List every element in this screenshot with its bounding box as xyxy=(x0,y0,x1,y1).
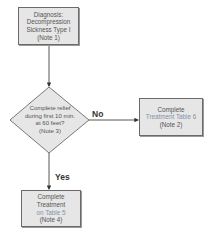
table5-box: Complete Treatment on Table 5 (Note 4) xyxy=(21,190,81,227)
table5-line-3: on Table 5 xyxy=(37,209,66,217)
decision-line-2: during first 10 min. xyxy=(20,112,80,120)
table6-box: Complete Treatment Table 6 (Note 2) xyxy=(139,98,203,136)
decision-line-3: at 60 feet? xyxy=(20,119,80,127)
diagnosis-box: Diagnosis: Decompression Sickness Type I… xyxy=(18,7,79,45)
table6-line-2: Treatment Table 6 xyxy=(146,113,196,121)
diagnosis-line-3: Sickness Type I xyxy=(27,26,71,34)
diagnosis-line-2: Decompression xyxy=(27,18,71,26)
table5-line-4: (Note 4) xyxy=(40,216,63,224)
table6-line-3: (Note 2) xyxy=(160,121,183,129)
decision-line-1: Complete relief xyxy=(20,104,80,112)
table6-line-1: Complete xyxy=(158,106,185,114)
decision-line-4: (Note 3) xyxy=(20,127,80,135)
table5-line-1: Complete xyxy=(38,193,65,201)
decision-text: Complete relief during first 10 min. at … xyxy=(20,104,80,134)
no-label: No xyxy=(92,109,103,119)
table5-line-2: Treatment xyxy=(37,201,65,209)
yes-label: Yes xyxy=(55,172,70,182)
diagnosis-line-4: (Note 1) xyxy=(37,34,60,42)
diagnosis-line-1: Diagnosis: xyxy=(34,11,63,19)
